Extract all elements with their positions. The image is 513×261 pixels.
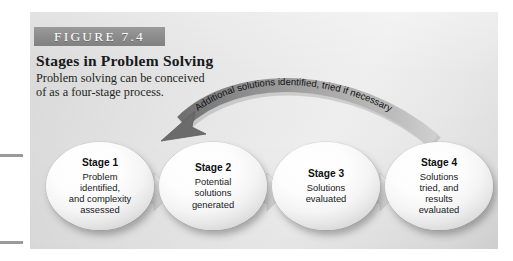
stage-4-line-3: results: [419, 193, 460, 204]
stage-oval-3-content: Stage 3 Solutions evaluated: [272, 142, 380, 230]
stage-4-line-2: tried, and: [419, 182, 460, 193]
stage-1-body: Problem identified, and complexity asses…: [69, 171, 132, 215]
figure-title: Stages in Problem Solving: [36, 52, 213, 70]
stage-4-line-4: evaluated: [419, 204, 460, 215]
stage-oval-3[interactable]: Stage 3 Solutions evaluated: [272, 142, 380, 230]
stage-oval-2-content: Stage 2 Potential solutions generated: [159, 142, 267, 230]
scan-tick-mark-lower: [0, 241, 23, 244]
stage-3-heading: Stage 3: [308, 168, 344, 180]
stage-2-heading: Stage 2: [195, 162, 231, 174]
figure-subtitle-line-2: of as a four-stage process.: [36, 85, 266, 99]
figure-root: FIGURE 7.4 Stages in Problem Solving Pro…: [0, 0, 513, 261]
stage-2-line-1: Potential: [192, 176, 234, 187]
scan-tick-mark-upper: [0, 154, 23, 157]
figure-subtitle: Problem solving can be conceived of as a…: [36, 71, 266, 99]
stage-oval-1-content: Stage 1 Problem identified, and complexi…: [46, 142, 154, 230]
stage-4-body: Solutions tried, and results evaluated: [419, 171, 460, 215]
stage-4-heading: Stage 4: [421, 157, 457, 169]
stage-oval-2[interactable]: Stage 2 Potential solutions generated: [159, 142, 267, 230]
figure-subtitle-line-1: Problem solving can be conceived: [36, 71, 266, 85]
stage-1-line-2: identified,: [69, 182, 132, 193]
stage-oval-1[interactable]: Stage 1 Problem identified, and complexi…: [46, 142, 154, 230]
stage-3-line-1: Solutions: [306, 182, 347, 193]
stage-2-line-3: generated: [192, 199, 234, 210]
stage-3-line-2: evaluated: [306, 193, 347, 204]
stage-oval-4[interactable]: Stage 4 Solutions tried, and results eva…: [385, 142, 493, 230]
figure-number-label: FIGURE 7.4: [34, 27, 165, 46]
figure-panel: FIGURE 7.4 Stages in Problem Solving Pro…: [30, 12, 498, 249]
stage-oval-4-content: Stage 4 Solutions tried, and results eva…: [385, 142, 493, 230]
stage-1-line-3: and complexity: [69, 193, 132, 204]
stage-4-line-1: Solutions: [419, 171, 460, 182]
stage-1-line-1: Problem: [69, 171, 132, 182]
stage-2-body: Potential solutions generated: [192, 176, 234, 209]
stage-1-line-4: assessed: [69, 204, 132, 215]
stage-2-line-2: solutions: [192, 187, 234, 198]
stage-1-heading: Stage 1: [82, 157, 118, 169]
figure-number-band: FIGURE 7.4: [34, 27, 165, 46]
stage-3-body: Solutions evaluated: [306, 182, 347, 204]
